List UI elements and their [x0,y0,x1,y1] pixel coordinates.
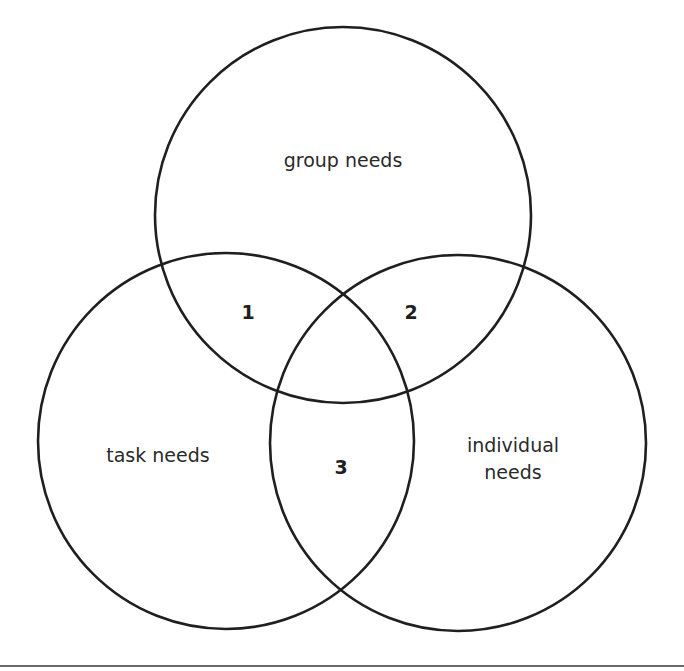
individual-needs-label-line2: needs [484,461,541,483]
individual-needs-label-line1: individual [467,434,559,456]
venn-diagram: group needs 1 2 3 task needs individual … [0,0,684,671]
task-needs-circle [38,253,414,629]
intersection-3-label: 3 [334,456,347,478]
individual-needs-circle [270,255,646,631]
group-needs-label: group needs [284,149,403,171]
intersection-2-label: 2 [404,301,417,323]
intersection-1-label: 1 [241,301,254,323]
group-needs-circle [155,27,531,403]
task-needs-label: task needs [106,444,209,466]
